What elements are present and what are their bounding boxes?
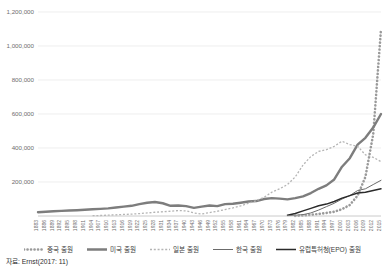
legend-label-usa: 미국 출원 (110, 244, 136, 254)
data-series-layer (38, 29, 381, 216)
x-axis-tick-label: 1946 (197, 220, 203, 231)
gridlines (38, 12, 381, 182)
x-axis-tick-label: 2003 (345, 220, 351, 231)
x-axis-tick-label: 1973 (267, 220, 273, 231)
x-axis-tick-label: 2015 (376, 220, 382, 231)
x-axis-tick-label: 1904 (88, 220, 94, 231)
legend-swatch-japan (150, 246, 170, 253)
x-axis-tick-label: 1922 (134, 220, 140, 231)
y-axis-tick-label: 1,000,000 (6, 42, 34, 49)
x-axis-tick-label: 1916 (119, 220, 125, 231)
legend-item-usa[interactable]: 미국 출원 (87, 244, 136, 254)
x-axis-tick-label: 1931 (158, 220, 164, 231)
x-axis-tick-label: 1943 (189, 220, 195, 231)
y-axis-tick-labels: 200,000400,000600,000800,0001,000,0001,2… (6, 8, 34, 185)
y-axis-tick-label: 1,200,000 (6, 8, 34, 15)
series-line-usa (38, 114, 381, 212)
patent-applications-line-chart: 200,000400,000600,000800,0001,000,0001,2… (0, 0, 385, 268)
x-axis-tick-label: 1997 (329, 220, 335, 231)
x-axis-tick-label: 1919 (127, 220, 133, 231)
x-axis-tick-label: 1892 (56, 220, 62, 231)
legend-item-korea[interactable]: 한국 출원 (213, 244, 262, 254)
y-axis-tick-label: 800,000 (12, 76, 35, 83)
x-axis-tick-label: 2006 (353, 220, 359, 231)
x-axis-tick-label: 1907 (95, 220, 101, 231)
legend-item-japan[interactable]: 일본 출원 (150, 244, 199, 254)
x-axis-tick-labels: 1883188618891892189518981901190419071910… (33, 220, 382, 231)
x-axis-tick-label: 2012 (368, 220, 374, 231)
x-axis-tick-label: 1979 (282, 220, 288, 231)
legend-label-china: 중국 출원 (47, 244, 73, 254)
x-axis-tick-label: 1976 (275, 220, 281, 231)
legend-label-japan: 일본 출원 (173, 244, 199, 254)
x-axis-tick-label: 1940 (181, 220, 187, 231)
legend-label-epo: 유럽특허청(EPO) 출원 (299, 244, 361, 254)
legend-swatch-usa (87, 246, 107, 253)
chart-legend: 중국 출원미국 출원일본 출원한국 출원유럽특허청(EPO) 출원 (0, 242, 385, 256)
x-axis-tick-label: 1988 (306, 220, 312, 231)
legend-item-epo[interactable]: 유럽특허청(EPO) 출원 (276, 244, 361, 254)
legend-swatch-china (24, 246, 44, 253)
x-axis-tick-label: 1949 (205, 220, 211, 231)
x-axis-tick-label: 1961 (236, 220, 242, 231)
y-axis-tick-label: 200,000 (12, 178, 35, 185)
x-axis-tick-label: 1883 (33, 220, 39, 231)
x-axis-tick-label: 1991 (314, 220, 320, 231)
x-axis-tick-label: 1955 (220, 220, 226, 231)
x-axis-tick-label: 1895 (64, 220, 70, 231)
chart-plot-area: 200,000400,000600,000800,0001,000,0001,2… (0, 0, 385, 240)
x-axis-tick-label: 1925 (142, 220, 148, 231)
x-axis-tick-label: 1928 (150, 220, 156, 231)
x-axis-tick-label: 1982 (290, 220, 296, 231)
x-axis-tick-label: 1994 (321, 220, 327, 231)
x-axis-tick-label: 1970 (259, 220, 265, 231)
legend-swatch-korea (213, 246, 233, 253)
x-axis-tick-label: 1934 (166, 220, 172, 231)
x-axis-tick-label: 1967 (251, 220, 257, 231)
x-axis-tick-label: 1886 (41, 220, 47, 231)
source-note: 자료: Ernst(2017: 11) (6, 256, 68, 266)
x-axis-tick-label: 1985 (298, 220, 304, 231)
x-axis-tick-label: 1910 (103, 220, 109, 231)
x-axis-tick-label: 1889 (49, 220, 55, 231)
x-axis-tick-label: 1964 (243, 220, 249, 231)
legend-swatch-epo (276, 246, 296, 253)
x-axis-tick-label: 2000 (337, 220, 343, 231)
y-axis-tick-label: 400,000 (12, 144, 35, 151)
y-axis-tick-label: 600,000 (12, 110, 35, 117)
x-axis-tick-label: 1898 (72, 220, 78, 231)
legend-item-china[interactable]: 중국 출원 (24, 244, 73, 254)
x-axis-tick-label: 1937 (173, 220, 179, 231)
x-axis-tick-label: 1952 (212, 220, 218, 231)
x-axis-tick-label: 1913 (111, 220, 117, 231)
x-axis-tick-label: 1958 (228, 220, 234, 231)
legend-label-korea: 한국 출원 (236, 244, 262, 254)
x-axis-tick-label: 2009 (360, 220, 366, 231)
x-axis-tick-label: 1901 (80, 220, 86, 231)
